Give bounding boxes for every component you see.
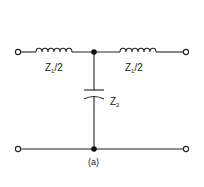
terminal-bottom-left — [15, 146, 20, 151]
junction-bottom — [91, 146, 97, 152]
junction-top — [91, 49, 97, 55]
capacitor-label: Z2 — [110, 97, 119, 108]
right-inductor-coil — [120, 48, 156, 52]
terminal-top-right — [183, 49, 188, 54]
left-inductor-label: Z1/2 — [45, 63, 63, 74]
figure-caption: (a) — [88, 158, 99, 167]
circuit-diagram — [0, 0, 204, 187]
left-inductor-coil — [36, 48, 72, 52]
terminal-bottom-right — [183, 146, 188, 151]
terminal-top-left — [15, 49, 20, 54]
right-inductor-label: Z1/2 — [125, 63, 143, 74]
